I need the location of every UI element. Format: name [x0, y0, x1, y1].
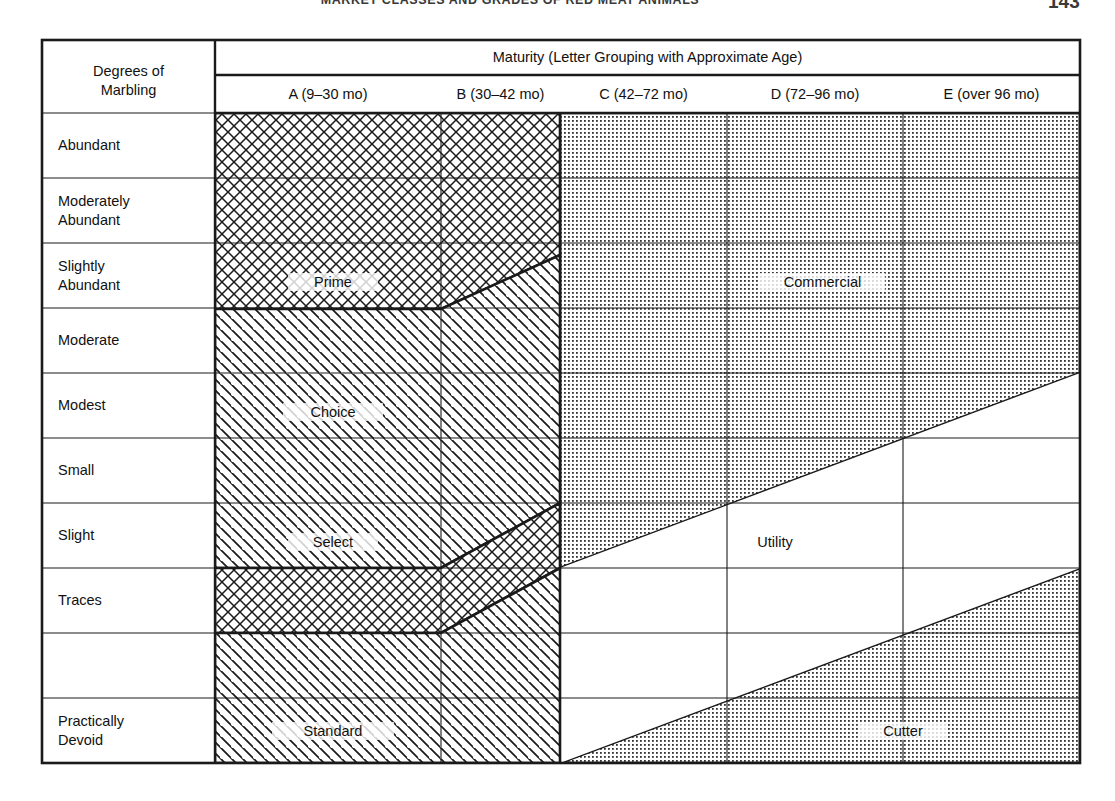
row-header-modest: Modest — [58, 396, 106, 415]
column-group-title: Maturity (Letter Grouping with Approxima… — [215, 48, 1080, 67]
grade-chart-svg — [0, 0, 1115, 801]
beef-grade-chart: Degrees of Marbling Maturity (Letter Gro… — [0, 0, 1115, 801]
column-header-A: A (9–30 mo) — [215, 85, 441, 104]
column-header-D: D (72–96 mo) — [727, 85, 903, 104]
row-header-title: Degrees of Marbling — [42, 62, 215, 100]
row-header-traces: Traces — [58, 591, 102, 610]
grade-label-select: Select — [288, 533, 378, 551]
grade-label-utility: Utility — [730, 533, 820, 551]
grade-label-commercial: Commercial — [760, 273, 885, 291]
row-header-moderately-abundant: Moderately Abundant — [58, 192, 130, 230]
row-header-slightly-abundant: Slightly Abundant — [58, 257, 120, 295]
column-header-B: B (30–42 mo) — [441, 85, 560, 104]
row-header-slight: Slight — [58, 526, 94, 545]
grade-label-cutter: Cutter — [858, 722, 948, 740]
row-header-small: Small — [58, 461, 94, 480]
column-header-E: E (over 96 mo) — [903, 85, 1080, 104]
grade-label-standard: Standard — [272, 722, 394, 740]
row-header-moderate: Moderate — [58, 331, 119, 350]
grade-label-choice: Choice — [283, 403, 383, 421]
column-header-C: C (42–72 mo) — [560, 85, 727, 104]
row-header-abundant: Abundant — [58, 136, 120, 155]
row-header-practically-devoid: Practically Devoid — [58, 712, 124, 750]
grade-label-prime: Prime — [288, 273, 378, 291]
